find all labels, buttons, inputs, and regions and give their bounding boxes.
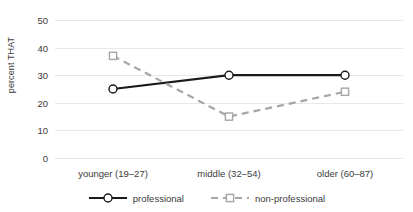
y-axis-ticks: 01020304050	[26, 0, 48, 212]
data-point-non-professional-2[interactable]	[341, 88, 348, 95]
legend-label: non-professional	[255, 193, 325, 204]
legend-swatch-square-icon	[210, 192, 250, 204]
data-point-professional-0[interactable]	[109, 85, 117, 93]
plot-area	[55, 20, 403, 158]
series-layer	[55, 20, 403, 158]
y-tick-label: 10	[26, 125, 48, 136]
x-axis-labels: younger (19–27)middle (32–54)older (60–8…	[55, 168, 403, 184]
y-tick-label: 20	[26, 97, 48, 108]
y-tick-label: 0	[26, 153, 48, 164]
data-point-professional-1[interactable]	[225, 71, 233, 79]
data-point-non-professional-0[interactable]	[109, 52, 116, 59]
y-axis-title: percent THAT	[6, 0, 20, 140]
data-point-professional-2[interactable]	[341, 71, 349, 79]
data-point-non-professional-1[interactable]	[225, 113, 232, 120]
y-tick-label: 50	[26, 15, 48, 26]
line-chart: percent THAT 01020304050 younger (19–27)…	[0, 0, 413, 212]
legend-label: professional	[133, 193, 184, 204]
gridline	[55, 158, 403, 159]
y-tick-label: 30	[26, 70, 48, 81]
legend-item-professional[interactable]: professional	[88, 192, 184, 204]
chart-legend: professionalnon-professional	[0, 190, 413, 206]
y-tick-label: 40	[26, 42, 48, 53]
legend-swatch-circle-icon	[88, 192, 128, 204]
series-line-non-professional	[113, 56, 345, 117]
legend-item-non-professional[interactable]: non-professional	[210, 192, 325, 204]
x-tick-label: middle (32–54)	[197, 168, 260, 179]
x-tick-label: older (60–87)	[317, 168, 374, 179]
x-tick-label: younger (19–27)	[78, 168, 148, 179]
